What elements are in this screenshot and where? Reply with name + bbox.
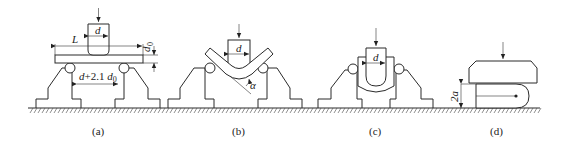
mandrel-diameter-label: d <box>95 24 101 36</box>
caption-d: (d) <box>490 125 503 138</box>
fold-point <box>514 94 517 97</box>
ground-line <box>28 108 541 113</box>
panel-d-flattening: 2a (d) <box>448 42 537 138</box>
right-support <box>258 68 302 108</box>
left-roller <box>348 64 358 74</box>
right-roller <box>119 63 129 73</box>
left-support <box>36 68 81 108</box>
svg-text:0: 0 <box>146 42 155 46</box>
left-support <box>318 70 362 108</box>
caption-a: (a) <box>92 125 105 138</box>
panel-c-u-bend: d (c) <box>318 28 433 138</box>
panel-b-bent-specimen: d α (b) <box>168 24 302 138</box>
right-support <box>390 70 433 108</box>
mandrel-diameter-label: d <box>373 51 379 63</box>
bend-angle-label: α <box>250 79 256 91</box>
mandrel-diameter-label: d <box>236 42 242 54</box>
span-length-label: L <box>71 33 78 45</box>
right-support <box>115 68 160 108</box>
bend-test-diagram: d L d 0 d+2.1 d0 (a) d <box>0 0 564 148</box>
right-roller <box>394 64 404 74</box>
pressing-plate <box>469 61 537 83</box>
gap-height-label: 2a <box>448 91 460 103</box>
caption-b: (b) <box>232 125 245 138</box>
caption-c: (c) <box>369 125 382 138</box>
left-roller <box>205 63 215 73</box>
panel-a-three-point-bend: d L d 0 d+2.1 d0 (a) <box>36 8 160 138</box>
support-spacing-label: d+2.1 d0 <box>79 70 117 84</box>
specimen-bar <box>55 55 143 63</box>
left-support <box>168 68 214 108</box>
left-roller <box>65 63 75 73</box>
